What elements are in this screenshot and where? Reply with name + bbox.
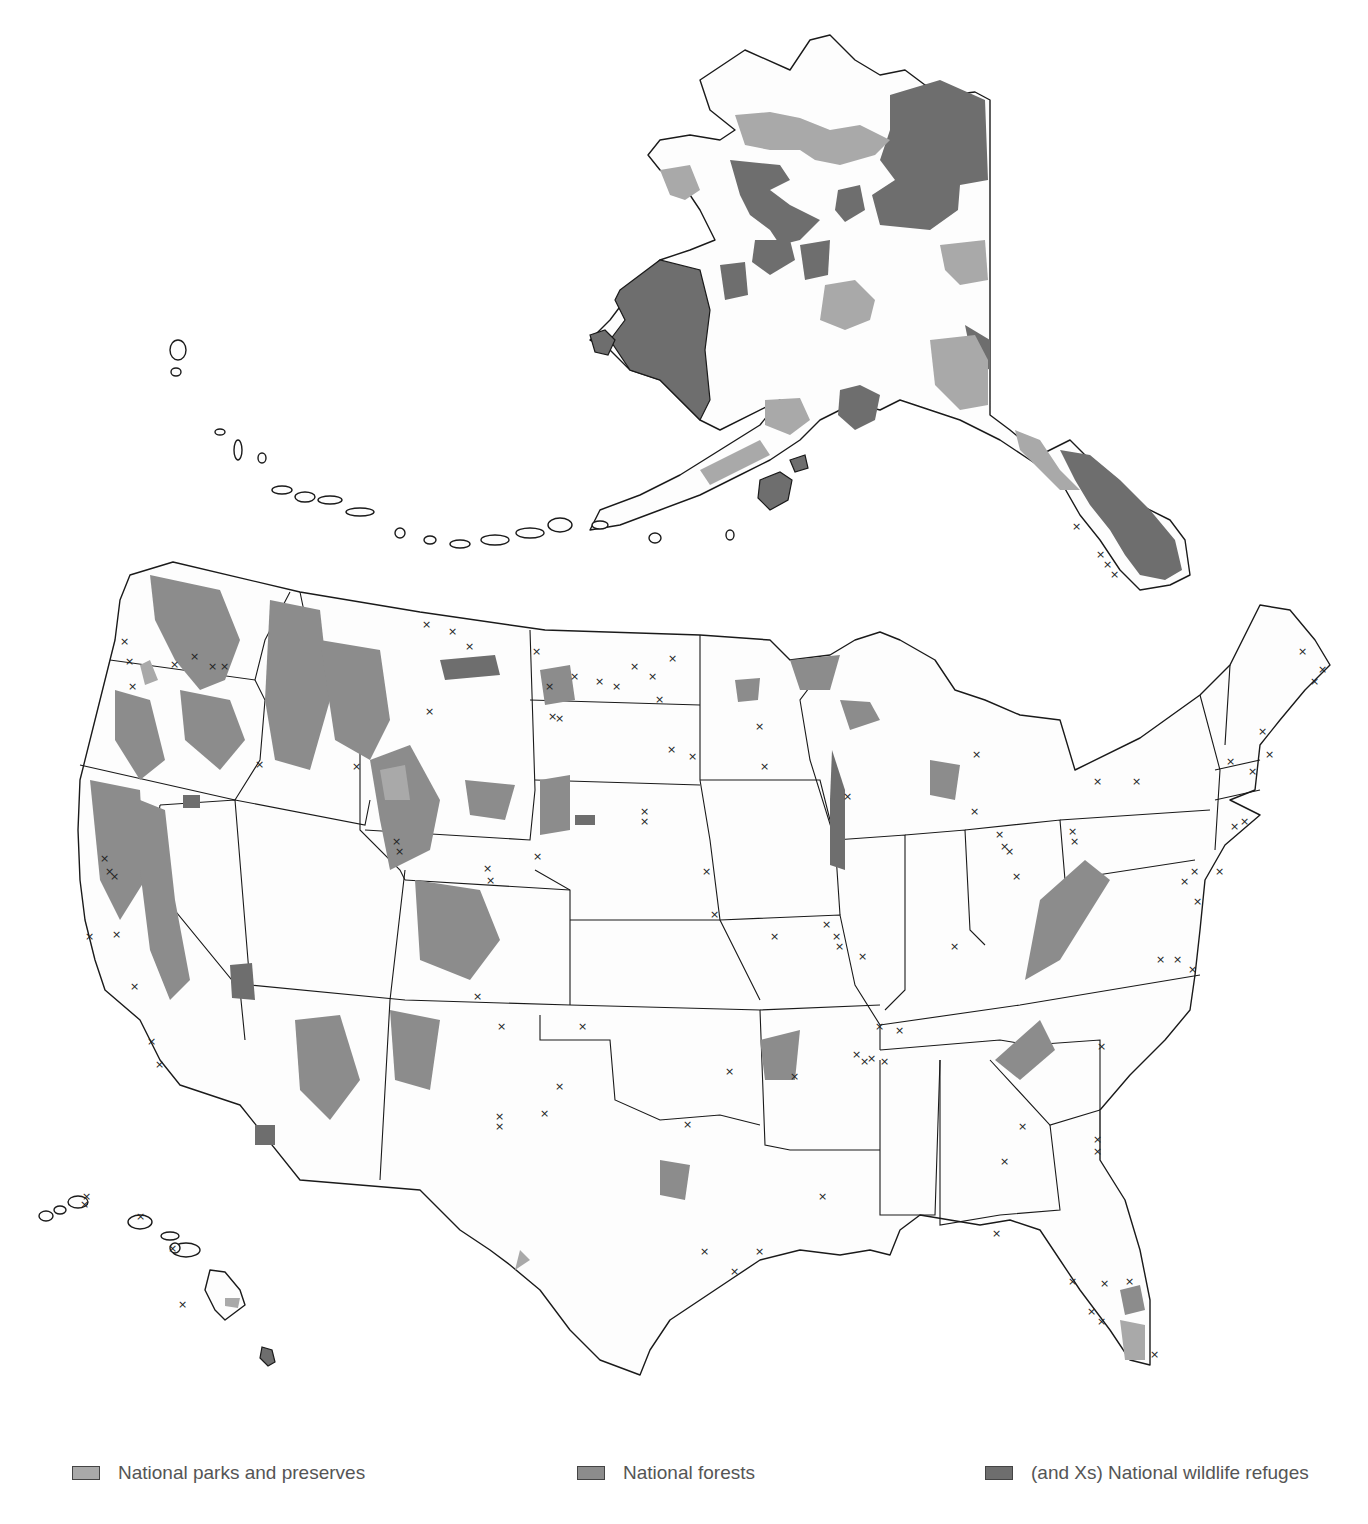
svg-text:×: ×: [190, 650, 199, 663]
svg-text:×: ×: [1000, 1155, 1009, 1168]
svg-text:×: ×: [612, 680, 621, 693]
svg-text:×: ×: [770, 930, 779, 943]
svg-text:×: ×: [1132, 775, 1141, 788]
svg-text:×: ×: [1110, 568, 1119, 581]
svg-text:×: ×: [80, 1198, 89, 1211]
svg-text:×: ×: [1230, 820, 1239, 833]
protected-lands-map: ××××: [0, 0, 1368, 1450]
svg-text:×: ×: [1193, 895, 1202, 908]
contiguous-us: ××× ×××× ×× ×××× ×× ××× ××× ×× ×× ×× ×××…: [78, 562, 1330, 1375]
svg-text:×: ×: [640, 815, 649, 828]
svg-text:×: ×: [495, 1120, 504, 1133]
svg-text:×: ×: [860, 1055, 869, 1068]
svg-text:×: ×: [972, 748, 981, 761]
svg-text:×: ×: [875, 1020, 884, 1033]
svg-text:×: ×: [1258, 725, 1267, 738]
legend-label-forests: National forests: [623, 1462, 755, 1484]
svg-text:×: ×: [128, 680, 137, 693]
legend-item-forests: National forests: [577, 1462, 755, 1484]
alaska: ××××: [170, 35, 1190, 590]
svg-text:×: ×: [755, 1245, 764, 1258]
svg-text:×: ×: [1190, 865, 1199, 878]
svg-text:×: ×: [648, 670, 657, 683]
svg-text:×: ×: [1150, 1348, 1159, 1361]
svg-text:×: ×: [1087, 1305, 1096, 1318]
svg-text:×: ×: [555, 712, 564, 725]
svg-text:×: ×: [595, 675, 604, 688]
svg-text:×: ×: [352, 760, 361, 773]
svg-text:×: ×: [555, 1080, 564, 1093]
svg-text:×: ×: [818, 1190, 827, 1203]
svg-text:×: ×: [1070, 835, 1079, 848]
svg-text:×: ×: [822, 918, 831, 931]
svg-text:×: ×: [422, 618, 431, 631]
svg-text:×: ×: [760, 760, 769, 773]
svg-text:×: ×: [425, 705, 434, 718]
svg-text:×: ×: [448, 625, 457, 638]
svg-text:×: ×: [843, 790, 852, 803]
svg-text:×: ×: [208, 660, 217, 673]
svg-text:×: ×: [155, 1058, 164, 1071]
svg-text:×: ×: [667, 743, 676, 756]
svg-text:×: ×: [1100, 1277, 1109, 1290]
svg-text:×: ×: [683, 1118, 692, 1131]
svg-text:×: ×: [835, 940, 844, 953]
svg-text:×: ×: [858, 950, 867, 963]
hawaii: ××× ××: [39, 1190, 275, 1366]
svg-text:×: ×: [895, 1024, 904, 1037]
svg-text:×: ×: [880, 1055, 889, 1068]
svg-text:×: ×: [178, 1298, 187, 1311]
refuge-swatch-icon: [985, 1466, 1013, 1480]
svg-text:×: ×: [136, 1210, 145, 1223]
svg-text:×: ×: [1188, 963, 1197, 976]
svg-text:×: ×: [1215, 865, 1224, 878]
svg-text:×: ×: [1072, 520, 1081, 533]
svg-text:×: ×: [630, 660, 639, 673]
legend-label-parks: National parks and preserves: [118, 1462, 365, 1484]
svg-text:×: ×: [170, 658, 179, 671]
svg-text:×: ×: [1097, 1040, 1106, 1053]
svg-text:×: ×: [1298, 645, 1307, 658]
svg-text:×: ×: [730, 1265, 739, 1278]
forest-swatch-icon: [577, 1466, 605, 1480]
svg-text:×: ×: [1018, 1120, 1027, 1133]
svg-text:×: ×: [1156, 953, 1165, 966]
svg-text:×: ×: [1180, 875, 1189, 888]
svg-text:×: ×: [545, 680, 554, 693]
svg-text:×: ×: [473, 990, 482, 1003]
svg-text:×: ×: [220, 660, 229, 673]
svg-text:×: ×: [497, 1020, 506, 1033]
svg-text:×: ×: [1248, 765, 1257, 778]
legend-item-refuges: (and Xs) National wildlife refuges: [985, 1462, 1309, 1484]
svg-text:×: ×: [1240, 815, 1249, 828]
svg-text:×: ×: [125, 655, 134, 668]
svg-text:×: ×: [992, 1227, 1001, 1240]
svg-text:×: ×: [950, 940, 959, 953]
svg-text:×: ×: [1005, 845, 1014, 858]
svg-text:×: ×: [725, 1065, 734, 1078]
svg-text:×: ×: [85, 930, 94, 943]
svg-text:×: ×: [540, 1107, 549, 1120]
svg-text:×: ×: [1173, 953, 1182, 966]
map-legend: National parks and preserves National fo…: [0, 1462, 1368, 1502]
svg-text:×: ×: [755, 720, 764, 733]
svg-text:×: ×: [1012, 870, 1021, 883]
svg-text:×: ×: [688, 750, 697, 763]
svg-text:×: ×: [668, 652, 677, 665]
svg-text:×: ×: [570, 670, 579, 683]
svg-text:×: ×: [100, 852, 109, 865]
svg-text:×: ×: [1093, 1145, 1102, 1158]
svg-text:×: ×: [1068, 1275, 1077, 1288]
park-swatch-icon: [72, 1466, 100, 1480]
svg-text:×: ×: [1318, 663, 1327, 676]
svg-text:×: ×: [395, 845, 404, 858]
svg-text:×: ×: [147, 1035, 156, 1048]
svg-text:×: ×: [465, 640, 474, 653]
legend-item-parks: National parks and preserves: [72, 1462, 365, 1484]
svg-text:×: ×: [1226, 755, 1235, 768]
svg-text:×: ×: [255, 758, 264, 771]
svg-text:×: ×: [1125, 1275, 1134, 1288]
svg-text:×: ×: [700, 1245, 709, 1258]
svg-text:×: ×: [112, 928, 121, 941]
svg-text:×: ×: [578, 1020, 587, 1033]
